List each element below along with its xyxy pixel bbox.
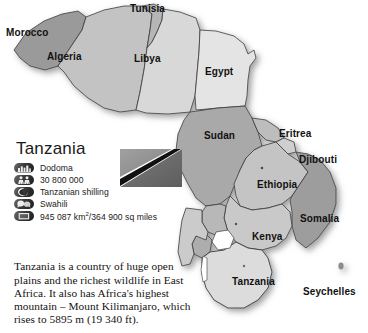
fact-value-currency: Tanzanian shilling [40,188,109,197]
island-dot-1 [261,167,264,170]
map-label-ethiopia: Ethiopia [257,180,297,190]
map-label-kenya: Kenya [252,232,283,242]
country-description: Tanzania is a country of huge open plain… [14,260,200,326]
island-dot-2 [235,223,237,225]
map-label-tanzania: Tanzania [232,277,275,287]
map-label-libya: Libya [134,54,161,64]
fact-value-capital: Dodoma [40,164,73,173]
fact-value-area-suffix: /364 900 sq miles [89,212,157,222]
fact-row-currency: Tanzanian shilling [14,187,204,199]
language-icon [14,199,34,209]
currency-icon [14,187,34,197]
map-label-sudan: Sudan [204,131,235,141]
map-label-egypt: Egypt [205,67,233,77]
tanzania-flag [120,149,182,187]
area-icon [14,211,34,221]
fact-value-language: Swahili [40,200,68,209]
map-label-somalia: Somalia [300,214,339,224]
fact-value-population: 30 800 000 [40,176,84,185]
population-icon [14,175,34,185]
map-label-tunisia: Tunisia [130,4,165,14]
fact-row-area: 945 087 km2/364 900 sq miles [14,211,204,223]
fact-value-area-prefix: 945 087 km [40,212,85,222]
map-label-algeria: Algeria [47,52,82,62]
island-dot-3 [243,265,245,267]
island-seychelles [338,263,343,270]
fact-row-language: Swahili [14,199,204,211]
map-label-morocco: Morocco [6,28,48,38]
map-label-eritrea: Eritrea [279,129,311,139]
map-label-seychelles: Seychelles [303,287,356,297]
fact-value-area: 945 087 km2/364 900 sq miles [40,211,157,221]
country-tanzania [202,242,272,308]
page-root: MoroccoTunisiaAlgeriaLibyaEgyptSudanErit… [0,0,368,333]
capital-city-icon [14,163,34,173]
map-label-djibouti: Djibouti [299,155,337,165]
